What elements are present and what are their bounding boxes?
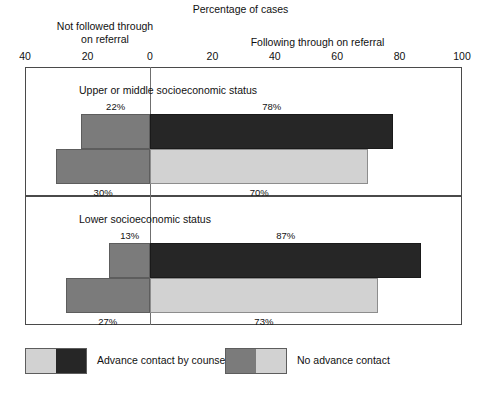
x-axis-tick-label: 80 (394, 50, 406, 62)
x-axis-tick-label: 20 (207, 50, 219, 62)
panel-caption-upper: Upper or middle socioeconomic status (79, 84, 257, 96)
x-axis-tick-label: 40 (19, 50, 31, 62)
legend-swatch-advance-left (26, 349, 56, 373)
legend-label-no-advance-contact: No advance contact (297, 354, 390, 366)
legend-swatch-advance-right (56, 349, 86, 373)
bar-segment-right-no-advance (150, 149, 368, 184)
bar-segment-left-no-advance (66, 278, 150, 313)
legend-label-advance-contact: Advance contact by counselor (97, 354, 237, 366)
bar-segment-right-advance (150, 114, 393, 149)
bar-value-label-right-no-advance: 70% (250, 187, 269, 198)
legend: Advance contact by counselor No advance … (0, 330, 481, 398)
bar-value-label-left-no-advance: 27% (98, 316, 117, 327)
chart-root: Percentage of cases Not followed through… (0, 0, 481, 398)
x-axis-tick-label: 100 (453, 50, 471, 62)
bar-value-label-right-advance: 87% (276, 230, 295, 241)
x-axis-tick-label: 20 (82, 50, 94, 62)
bar-value-label-left-advance: 13% (120, 230, 139, 241)
bar-value-label-right-advance: 78% (262, 101, 281, 112)
x-axis-tick-label: 60 (331, 50, 343, 62)
bar-value-label-left-advance: 22% (106, 101, 125, 112)
bar-value-label-right-no-advance: 73% (254, 316, 273, 327)
x-axis-tick-label: 40 (269, 50, 281, 62)
legend-swatch-advance-contact (25, 348, 87, 374)
x-axis-tick-label: 0 (147, 50, 153, 62)
panel-caption-lower: Lower socioeconomic status (79, 213, 211, 225)
bar-value-label-left-no-advance: 30% (94, 187, 113, 198)
bar-segment-right-no-advance (150, 278, 378, 313)
bar-segment-left-no-advance (56, 149, 150, 184)
bar-segment-left-advance (81, 114, 150, 149)
legend-swatch-no-advance-contact (225, 348, 287, 374)
legend-swatch-no-advance-right (256, 349, 286, 373)
legend-swatch-no-advance-left (226, 349, 256, 373)
bar-segment-left-advance (109, 243, 150, 278)
bar-segment-right-advance (150, 243, 421, 278)
